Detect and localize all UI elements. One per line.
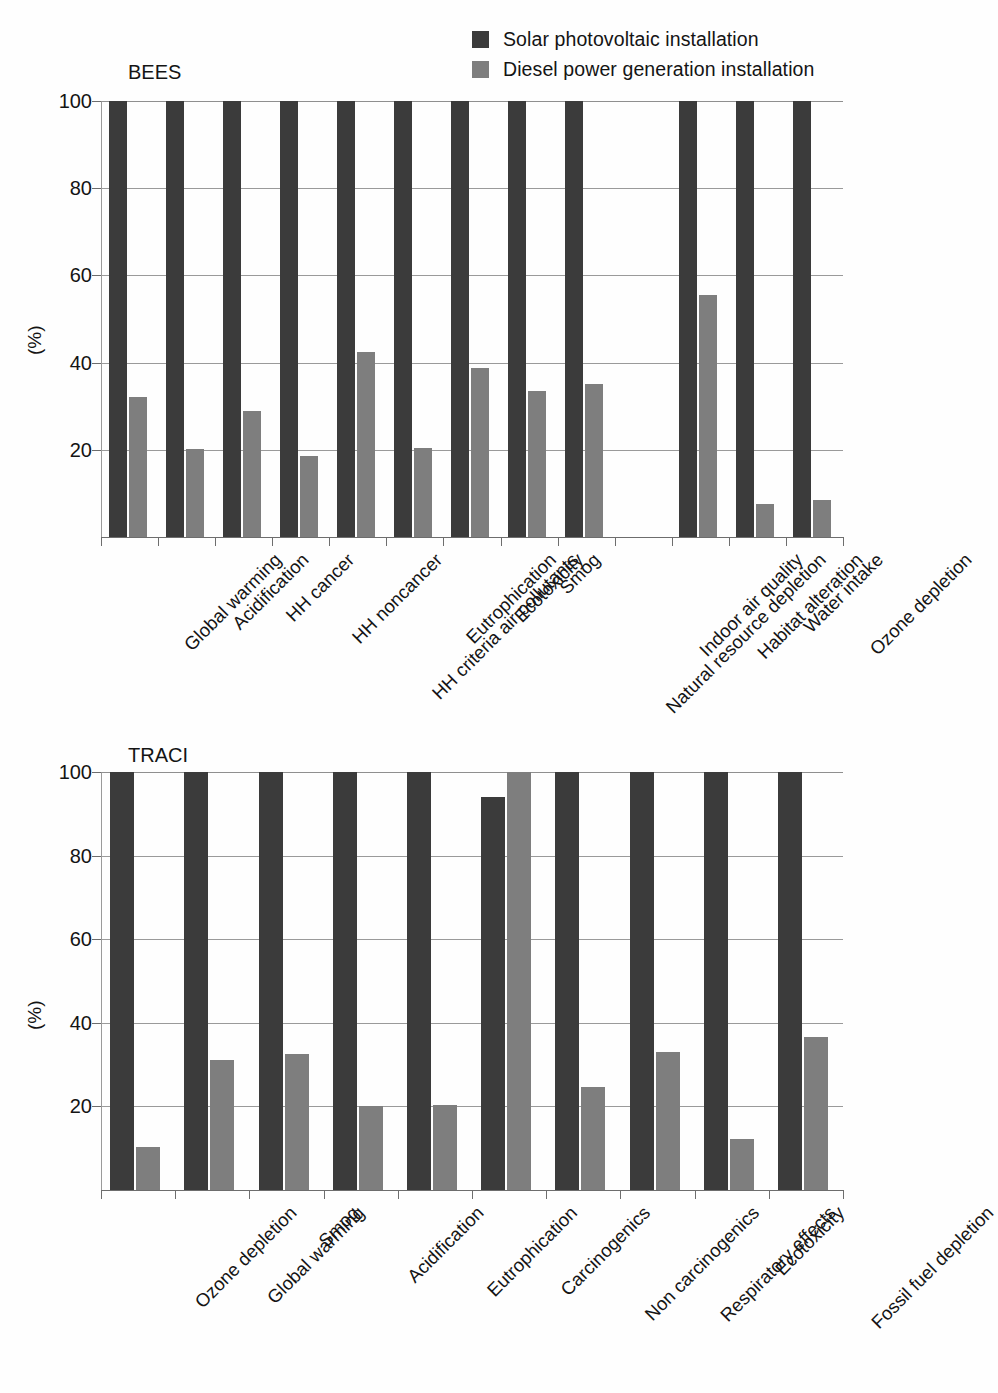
bar-traci-0-8 (704, 772, 728, 1190)
chart-traci-y-axis-label: (%) (24, 1000, 46, 1030)
y-tick-label-20: 20 (70, 438, 92, 461)
x-tick-mark (501, 537, 502, 546)
gridline-40 (101, 1023, 843, 1024)
bar-bees-0-1 (166, 101, 184, 537)
bar-bees-0-8 (565, 101, 583, 537)
bar-traci-1-1 (210, 1060, 234, 1190)
bar-bees-1-2 (243, 411, 261, 537)
bar-traci-1-8 (730, 1139, 754, 1190)
bar-traci-0-5 (481, 797, 505, 1190)
y-tick-label-40: 40 (70, 351, 92, 374)
y-tick-mark-100 (92, 101, 101, 102)
y-tick-label-80: 80 (70, 844, 92, 867)
chart-bees: BEES (%) 20406080100 Global warmingAcidi… (0, 60, 863, 700)
bar-traci-1-3 (359, 1106, 383, 1190)
chart-bees-plot-area: 20406080100 (101, 101, 843, 537)
x-axis-label-bees-8: Natural resource depletion (662, 549, 831, 718)
x-axis-label-traci-9: Fossil fuel depletion (867, 1202, 998, 1333)
chart-bees-y-axis-label: (%) (24, 325, 46, 355)
y-tick-label-60: 60 (70, 264, 92, 287)
bar-bees-1-4 (357, 352, 375, 537)
bar-bees-1-3 (300, 456, 318, 537)
x-axis-line (101, 537, 843, 538)
x-tick-mark (175, 1190, 176, 1199)
gridline-100 (101, 101, 843, 102)
y-tick-label-100: 100 (59, 761, 92, 784)
bar-traci-0-1 (184, 772, 208, 1190)
x-tick-mark (546, 1190, 547, 1199)
x-tick-mark (769, 1190, 770, 1199)
gridline-80 (101, 188, 843, 189)
x-tick-mark (324, 1190, 325, 1199)
chart-traci-plot-area: 20406080100 (101, 772, 843, 1190)
bar-bees-0-0 (109, 101, 127, 537)
bar-bees-1-8 (585, 384, 603, 537)
x-axis-label-bees-9: Indoor air quality (695, 549, 807, 661)
bar-bees-1-5 (414, 448, 432, 537)
bar-bees-1-10 (699, 295, 717, 537)
x-tick-mark (472, 1190, 473, 1199)
x-axis-label-traci-3: Acidification (403, 1202, 488, 1287)
bar-bees-1-11 (756, 504, 774, 537)
bar-traci-0-0 (110, 772, 134, 1190)
bar-bees-1-12 (813, 500, 831, 537)
bar-bees-0-3 (280, 101, 298, 537)
bar-bees-0-11 (736, 101, 754, 537)
bar-traci-1-0 (136, 1147, 160, 1190)
bar-bees-1-1 (186, 449, 204, 537)
y-tick-mark-20 (92, 1106, 101, 1107)
bar-bees-0-2 (223, 101, 241, 537)
y-tick-mark-40 (92, 363, 101, 364)
y-tick-mark-60 (92, 275, 101, 276)
x-tick-mark (101, 537, 102, 546)
bar-bees-0-5 (394, 101, 412, 537)
bar-bees-1-6 (471, 368, 489, 537)
x-tick-mark (249, 1190, 250, 1199)
y-tick-mark-40 (92, 1023, 101, 1024)
legend-swatch-solar-icon (472, 31, 489, 48)
x-tick-mark (101, 1190, 102, 1199)
x-tick-mark (215, 537, 216, 546)
bar-bees-0-6 (451, 101, 469, 537)
bar-traci-1-9 (804, 1037, 828, 1190)
y-tick-label-80: 80 (70, 177, 92, 200)
bar-bees-0-7 (508, 101, 526, 537)
x-tick-mark (843, 537, 844, 546)
bar-bees-0-4 (337, 101, 355, 537)
y-axis-line (101, 772, 102, 1190)
bar-traci-1-7 (656, 1052, 680, 1190)
y-tick-mark-80 (92, 188, 101, 189)
x-tick-mark (558, 537, 559, 546)
gridline-60 (101, 275, 843, 276)
x-tick-mark (620, 1190, 621, 1199)
y-tick-label-60: 60 (70, 928, 92, 951)
bar-bees-1-0 (129, 397, 147, 537)
x-tick-mark (786, 537, 787, 546)
bar-traci-0-7 (630, 772, 654, 1190)
gridline-60 (101, 939, 843, 940)
bar-traci-0-6 (555, 772, 579, 1190)
y-tick-mark-100 (92, 772, 101, 773)
bar-traci-1-2 (285, 1054, 309, 1190)
chart-traci: TRACI (%) 20406080100 Ozone depletionGlo… (0, 730, 863, 1370)
gridline-100 (101, 772, 843, 773)
legend-item-solar: Solar photovoltaic installation (472, 28, 814, 51)
y-tick-label-100: 100 (59, 90, 92, 113)
x-tick-mark (329, 537, 330, 546)
x-tick-mark (158, 537, 159, 546)
x-tick-mark (695, 1190, 696, 1199)
y-tick-label-20: 20 (70, 1095, 92, 1118)
bar-bees-1-7 (528, 391, 546, 537)
bar-bees-0-12 (793, 101, 811, 537)
bar-traci-1-4 (433, 1105, 457, 1190)
y-tick-label-40: 40 (70, 1011, 92, 1034)
x-tick-mark (443, 537, 444, 546)
bar-traci-1-6 (581, 1087, 605, 1190)
bar-traci-1-5 (507, 772, 531, 1190)
bar-traci-0-4 (407, 772, 431, 1190)
chart-bees-title: BEES (128, 61, 181, 84)
gridline-80 (101, 856, 843, 857)
gridline-40 (101, 363, 843, 364)
x-tick-mark (843, 1190, 844, 1199)
chart-traci-title: TRACI (128, 744, 188, 767)
